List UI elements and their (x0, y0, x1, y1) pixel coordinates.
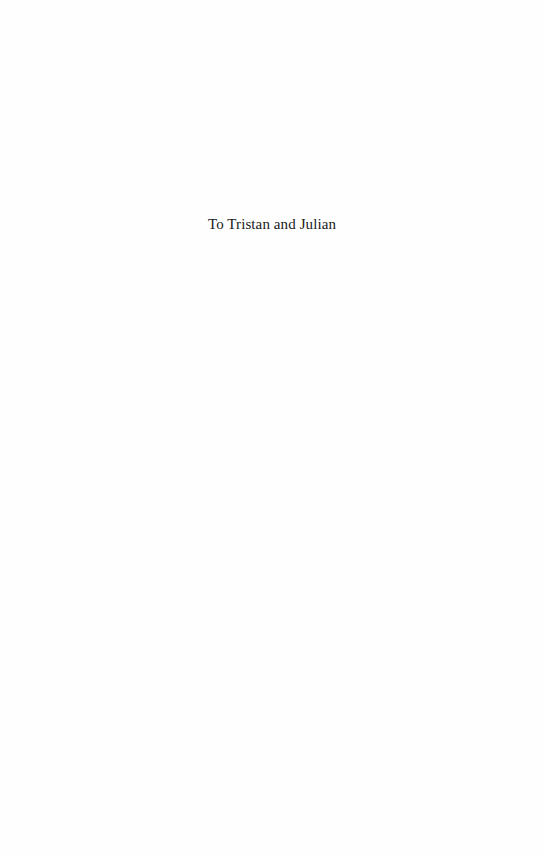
book-page: To Tristan and Julian (0, 0, 544, 858)
dedication-text: To Tristan and Julian (0, 214, 544, 234)
